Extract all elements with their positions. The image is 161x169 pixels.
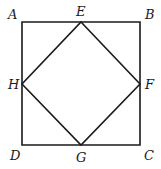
label-a: A xyxy=(7,7,17,22)
label-g: G xyxy=(76,150,86,165)
inner-square-efgh xyxy=(22,22,140,145)
label-b: B xyxy=(144,7,155,22)
label-f: F xyxy=(144,77,155,92)
label-h: H xyxy=(7,77,20,92)
outer-square-abcd xyxy=(22,22,140,145)
label-e: E xyxy=(75,4,86,19)
label-c: C xyxy=(144,148,154,163)
geometry-diagram: A B C D E F G H xyxy=(0,0,161,169)
label-d: D xyxy=(9,148,21,163)
